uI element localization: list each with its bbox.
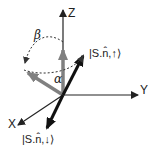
up-state-vector <box>63 56 83 95</box>
x-axis-label: X <box>8 118 16 130</box>
spin-state-diagram <box>0 0 155 153</box>
down-state-label: |S.n̂,↓⟩ <box>22 134 54 145</box>
alpha-label: α <box>54 73 62 85</box>
up-state-label: |S.n̂,↑⟩ <box>89 48 121 59</box>
beta-label: β <box>34 29 41 41</box>
y-axis-label: Y <box>140 84 148 96</box>
beta-arc <box>25 37 63 63</box>
z-axis-label: Z <box>68 7 75 19</box>
